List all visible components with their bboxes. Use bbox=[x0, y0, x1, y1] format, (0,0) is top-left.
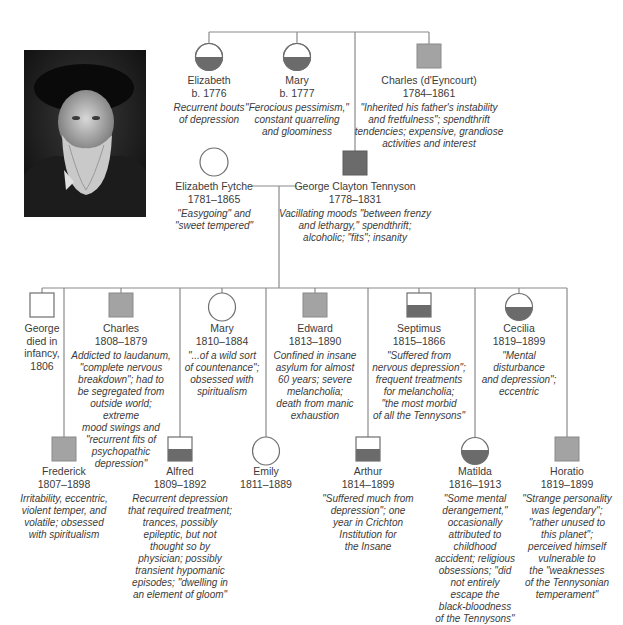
person-edward-1813: Edward 1813–1890 Confined in insane asyl… bbox=[268, 322, 363, 422]
person-mary-1777: Mary b. 1777 "Ferocious pessimism," cons… bbox=[232, 74, 362, 138]
person-description: Confined in insane asylum for almost 60 … bbox=[268, 350, 363, 422]
person-name: Emily bbox=[231, 465, 301, 478]
person-mary-1810: Mary 1810–1884 "...of a wild sort of cou… bbox=[177, 322, 267, 398]
person-dates: 1781–1865 bbox=[164, 193, 264, 206]
person-name: George died in infancy, 1806 bbox=[12, 322, 72, 372]
portrait-figure-icon bbox=[24, 50, 146, 217]
person-description: "Suffered much from depression"; one yea… bbox=[313, 493, 423, 553]
person-george-1806: George died in infancy, 1806 bbox=[12, 322, 72, 372]
symbol-cecilia-1819[interactable] bbox=[506, 294, 533, 321]
person-name: Arthur bbox=[313, 465, 423, 478]
person-dates: 1819–1899 bbox=[474, 335, 564, 348]
person-name: Septimus bbox=[364, 322, 474, 335]
person-dates: 1810–1884 bbox=[177, 335, 267, 348]
person-name: Elizabeth Fytche bbox=[164, 180, 264, 193]
person-description: "Suffered from nervous depression"; freq… bbox=[364, 350, 474, 422]
person-dates: 1811–1889 bbox=[231, 478, 301, 491]
person-dates: 1778–1831 bbox=[270, 193, 440, 206]
person-arthur-1814: Arthur 1814–1899 "Suffered much from dep… bbox=[313, 465, 423, 553]
person-george-clayton-tennyson: George Clayton Tennyson 1778–1831 Vacill… bbox=[270, 180, 440, 244]
symbol-george-1806[interactable] bbox=[30, 293, 54, 317]
person-cecilia-1819: Cecilia 1819–1899 "Mental disturbance an… bbox=[474, 322, 564, 398]
symbol-horatio-1819[interactable] bbox=[555, 437, 579, 461]
person-horatio-1819: Horatio 1819–1899 "Strange personality w… bbox=[511, 465, 623, 601]
symbol-alfred-1809[interactable] bbox=[168, 437, 192, 461]
person-description: "...of a wild sort of countenance"; obse… bbox=[177, 350, 267, 398]
symbol-edward-1813[interactable] bbox=[303, 293, 327, 317]
symbol-matilda-1816[interactable] bbox=[462, 438, 489, 465]
person-dates: 1808–1879 bbox=[71, 335, 171, 348]
person-charles-1808: Charles 1808–1879 Addicted to laudanum, … bbox=[71, 322, 171, 470]
person-description: "Strange personality was legendary"; "ra… bbox=[511, 493, 623, 601]
person-name: Horatio bbox=[511, 465, 623, 478]
person-description: "Ferocious pessimism," constant quarreli… bbox=[232, 102, 362, 138]
symbol-elizabeth-fytche[interactable] bbox=[200, 148, 228, 176]
person-name: Charles (d'Eyncourt) bbox=[344, 74, 514, 87]
person-name: Frederick bbox=[7, 465, 122, 478]
person-name: Alfred bbox=[120, 465, 240, 478]
person-dates: 1784–1861 bbox=[344, 87, 514, 100]
person-description: Irritability, eccentric, violent temper,… bbox=[7, 493, 122, 541]
portrait-photo bbox=[24, 50, 146, 217]
person-description: "Inherited his father's instability and … bbox=[344, 102, 514, 150]
person-description: "Mental disturbance and depression"; ecc… bbox=[474, 350, 564, 398]
person-description: Addicted to laudanum, "complete nervous … bbox=[71, 350, 171, 470]
person-dates: 1813–1890 bbox=[268, 335, 363, 348]
person-name: Charles bbox=[71, 322, 171, 335]
person-dates: 1815–1866 bbox=[364, 335, 474, 348]
symbol-mary-1810[interactable] bbox=[209, 293, 236, 321]
person-name: Mary bbox=[232, 74, 362, 87]
person-dates: 1807–1898 bbox=[7, 478, 122, 491]
person-septimus-1815: Septimus 1815–1866 "Suffered from nervou… bbox=[364, 322, 474, 422]
person-dates: 1819–1899 bbox=[511, 478, 623, 491]
person-elizabeth-fytche: Elizabeth Fytche 1781–1865 "Easygoing" a… bbox=[164, 180, 264, 232]
person-description: Recurrent depression that required treat… bbox=[120, 493, 240, 601]
person-description: Vacillating moods "between frenzy and le… bbox=[270, 208, 440, 244]
symbol-george-clayton-tennyson[interactable] bbox=[343, 151, 367, 175]
symbol-septimus-1815[interactable] bbox=[407, 293, 431, 317]
symbol-charles-1808[interactable] bbox=[109, 293, 133, 317]
symbol-emily-1811[interactable] bbox=[253, 437, 280, 465]
symbol-mary-1777[interactable] bbox=[284, 44, 311, 71]
symbol-elizabeth-1776[interactable] bbox=[196, 44, 223, 71]
person-emily-1811: Emily 1811–1889 bbox=[231, 465, 301, 490]
person-frederick-1807: Frederick 1807–1898 Irritability, eccent… bbox=[7, 465, 122, 541]
person-name: Edward bbox=[268, 322, 363, 335]
person-alfred-1809: Alfred 1809–1892 Recurrent depression th… bbox=[120, 465, 240, 601]
person-description: "Easygoing" and "sweet tempered" bbox=[164, 208, 264, 232]
symbol-charles-deyncourt[interactable] bbox=[417, 44, 441, 68]
person-dates: b. 1777 bbox=[232, 87, 362, 100]
symbol-arthur-1814[interactable] bbox=[356, 437, 380, 461]
person-name: Cecilia bbox=[474, 322, 564, 335]
person-name: George Clayton Tennyson bbox=[270, 180, 440, 193]
person-charles-deyncourt: Charles (d'Eyncourt) 1784–1861 "Inherite… bbox=[344, 74, 514, 150]
person-dates: 1809–1892 bbox=[120, 478, 240, 491]
person-name: Mary bbox=[177, 322, 267, 335]
person-dates: 1814–1899 bbox=[313, 478, 423, 491]
